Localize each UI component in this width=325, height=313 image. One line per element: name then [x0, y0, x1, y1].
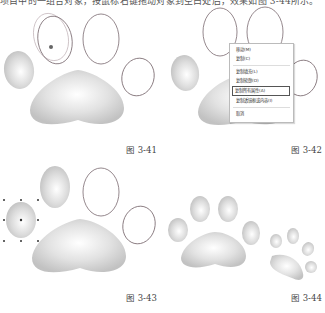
menu-item-copy-all-properties[interactable]: 复制所有属性(A): [232, 86, 290, 96]
main-pad: [32, 219, 126, 272]
figure-3-41: [2, 9, 159, 124]
figure-caption-3-42: 图 3-42: [291, 143, 322, 155]
context-menu: 移动(M) 复制(C) 复制填充(L) 复制轮廓(O) 复制所有属性(A) 复制…: [229, 43, 294, 123]
small-paw-toe-3: [300, 240, 316, 257]
figure-caption-3-44: 图 3-44: [291, 291, 322, 303]
large-paw-pad: [181, 232, 246, 267]
menu-separator: [233, 107, 290, 108]
menu-item-copy-outline[interactable]: 复制轮廓(O): [234, 77, 261, 85]
menu-item-cancel[interactable]: 取消: [234, 110, 246, 118]
toe-outline-3: [118, 55, 159, 100]
large-paw-toe-3: [218, 196, 238, 222]
menu-item-copy[interactable]: 复制(C): [234, 55, 252, 63]
toe-outline-2: [83, 168, 119, 216]
toe-outline-3: [119, 203, 160, 248]
menu-separator: [233, 65, 290, 66]
figure-3-44: [168, 196, 317, 280]
toe-outline-2: [83, 14, 119, 64]
small-paw-toe-4: [305, 261, 317, 273]
toe-filled: [169, 53, 202, 93]
menu-item-copy-lens-content[interactable]: 复制透镜框或内容(I): [234, 97, 275, 105]
figure-caption-3-43: 图 3-43: [126, 291, 157, 303]
toe-outline-selected: [34, 13, 76, 66]
toe-outline-ghost: [28, 9, 73, 64]
figure-caption-3-41: 图 3-41: [126, 143, 157, 155]
main-pad: [30, 70, 124, 124]
toe-filled-1: [40, 166, 70, 208]
small-paw-pad: [270, 255, 303, 280]
figure-3-43: [3, 166, 159, 272]
center-handle-icon: [49, 45, 53, 49]
menu-item-copy-fill[interactable]: 复制填充(L): [234, 68, 260, 76]
small-paw-toe-1: [270, 234, 282, 248]
large-paw-toe-4: [242, 221, 260, 245]
large-paw-toe-1: [168, 218, 188, 242]
menu-item-move[interactable]: 移动(M): [234, 46, 253, 54]
toe-filled: [2, 49, 37, 91]
large-paw-toe-2: [190, 196, 210, 222]
small-paw-toe-2: [287, 228, 299, 244]
